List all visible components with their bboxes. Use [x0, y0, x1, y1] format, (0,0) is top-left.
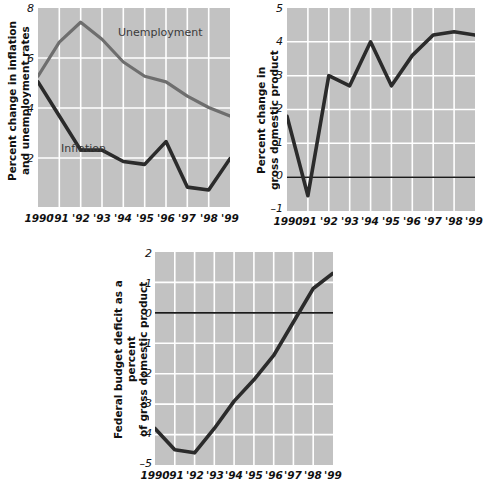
chart3-plot-area: [155, 252, 333, 465]
chart1-ytick-6: 6: [22, 52, 34, 65]
chart3-ytick-neg2: –2: [131, 367, 152, 380]
chart3-svg: [155, 252, 333, 465]
chart1-ytick-8: 8: [22, 2, 34, 15]
chart1-ytick-4: 4: [22, 102, 34, 115]
chart2-ytick-neg1: –1: [264, 202, 283, 215]
chart2-ytick-2: 2: [269, 102, 283, 115]
chart2-ytick-4: 4: [269, 35, 283, 48]
chart-gdp-percent-change: Percent change in gross domestic product…: [247, 0, 487, 240]
chart1-series-inflation: [38, 82, 230, 190]
chart1-y-axis-label: Percent change in inflation and unemploy…: [6, 8, 32, 193]
chart-inflation-unemployment: Percent change in inflation and unemploy…: [0, 0, 240, 240]
chart2-svg: [287, 8, 475, 211]
chart3-series-deficit: [155, 273, 333, 453]
chart1-xtick-99: '99: [215, 212, 245, 224]
chart2-xtick-99: '99: [459, 215, 487, 227]
chart2-ytick-5: 5: [269, 2, 283, 15]
chart3-ytick-2: 2: [136, 247, 152, 260]
chart1-ytick-2: 2: [22, 152, 34, 165]
chart2-ytick-0: 0: [269, 169, 283, 182]
chart3-ytick-0: 0: [136, 307, 152, 320]
chart2-ytick-1: 1: [269, 136, 283, 149]
chart2-series-gdp: [287, 32, 475, 196]
chart3-ytick-neg3: –3: [131, 397, 152, 410]
chart2-plot-area: [287, 8, 475, 211]
chart2-ytick-3: 3: [269, 69, 283, 82]
chart1-label-unemployment: Unemployment: [118, 26, 203, 39]
chart3-ytick-neg4: –4: [131, 427, 152, 440]
chart3-ytick-neg1: –1: [131, 337, 152, 350]
chart3-xtick-99: '99: [318, 469, 348, 481]
chart-federal-budget-deficit: Federal budget deficit as a percent of g…: [112, 245, 372, 488]
chart3-ytick-1: 1: [136, 277, 152, 290]
chart1-label-inflation: Inflation: [61, 142, 106, 155]
